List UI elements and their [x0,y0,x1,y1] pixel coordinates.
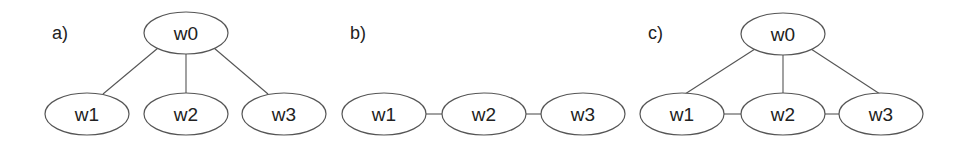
edge-w0-w3 [811,49,880,94]
node-w2: w2 [741,93,825,135]
node-label: w3 [570,104,595,125]
node-label: w1 [74,104,99,125]
node-label: w2 [770,104,795,125]
panel-label-c: c) [648,23,663,43]
panel-c: c) w0 w1 w2 w3 [640,13,923,135]
node-label: w2 [173,104,198,125]
node-label: w0 [770,24,795,45]
node-w2: w2 [144,93,228,135]
panel-label-b: b) [350,23,366,43]
node-w2: w2 [442,93,526,135]
node-w3: w3 [541,93,625,135]
node-w3: w3 [242,93,326,135]
node-w1: w1 [45,93,129,135]
node-label: w1 [669,104,694,125]
edge-w0-w1 [103,48,158,94]
node-w0: w0 [144,12,228,54]
node-w0: w0 [741,13,825,55]
diagram-canvas: a) w0 w1 w2 w3 b) w1 w2 [0,0,970,144]
panel-b: b) w1 w2 w3 [342,23,625,135]
node-label: w1 [371,104,396,125]
node-label: w3 [868,104,893,125]
panel-a: a) w0 w1 w2 w3 [45,12,326,135]
node-label: w2 [471,104,496,125]
edge-w0-w1 [685,49,755,94]
panel-label-a: a) [52,23,68,43]
node-label: w0 [173,23,198,44]
edge-w0-w3 [214,48,268,94]
node-w1: w1 [640,93,724,135]
node-w1: w1 [342,93,426,135]
node-label: w3 [271,104,296,125]
node-w3: w3 [839,93,923,135]
